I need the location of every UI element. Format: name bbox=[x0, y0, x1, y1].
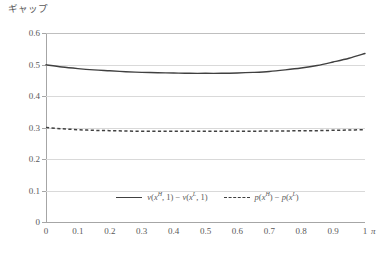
x-tick-label: 0.8 bbox=[296, 226, 307, 236]
x-axis-line bbox=[46, 222, 365, 223]
x-tick-label: 0.6 bbox=[232, 226, 243, 236]
x-tick-label: 0.9 bbox=[327, 226, 338, 236]
legend-entry-v-gap: v(xH, 1) − v(xL, 1) bbox=[116, 192, 207, 202]
y-tick-label: 0.6 bbox=[4, 29, 40, 38]
x-axis-tick-labels: 0 0.1 0.2 0.3 0.4 0.5 0.6 0.7 0.8 0.9 1 bbox=[46, 226, 365, 242]
x-tick-label: 0 bbox=[44, 226, 49, 236]
y-axis-tick-labels: 0.6 0.5 0.4 0.3 0.2 0.1 0 bbox=[0, 33, 40, 222]
legend-entry-p-gap: p(xH) − p(xL) bbox=[224, 192, 299, 202]
x-tick-label: 1 bbox=[363, 226, 368, 236]
x-tick-label: 0.5 bbox=[200, 226, 211, 236]
legend-line-swatch-dashed bbox=[224, 197, 250, 198]
y-tick-label: 0.4 bbox=[4, 92, 40, 101]
y-tick-label: 0 bbox=[4, 218, 40, 227]
y-tick-label: 0.2 bbox=[4, 155, 40, 164]
legend-label-v-gap: v(xH, 1) − v(xL, 1) bbox=[147, 192, 207, 202]
y-tick-label: 0.5 bbox=[4, 61, 40, 70]
x-axis-title: π bbox=[371, 226, 376, 236]
chart-figure: ギャップ 0.6 0.5 0.4 0.3 0.2 0.1 0 bbox=[0, 0, 383, 256]
chart-legend: v(xH, 1) − v(xL, 1) p(xH) − p(xL) bbox=[100, 188, 315, 206]
x-tick-label: 0.3 bbox=[136, 226, 147, 236]
x-tick-label: 0.7 bbox=[264, 226, 275, 236]
x-tick-label: 0.1 bbox=[72, 226, 83, 236]
y-tick-label: 0.1 bbox=[4, 187, 40, 196]
series-line-v-gap bbox=[46, 53, 365, 73]
y-axis-title: ギャップ bbox=[8, 3, 48, 15]
series-line-p-gap bbox=[46, 128, 365, 132]
x-tick-label: 0.2 bbox=[104, 226, 115, 236]
y-tick-label: 0.3 bbox=[4, 124, 40, 133]
x-tick-label: 0.4 bbox=[168, 226, 179, 236]
legend-label-p-gap: p(xH) − p(xL) bbox=[255, 192, 299, 202]
legend-line-swatch-solid bbox=[116, 197, 142, 198]
